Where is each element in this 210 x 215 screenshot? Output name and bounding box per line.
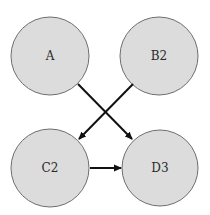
node-b2-label: B2 bbox=[151, 49, 167, 63]
node-d3-label: D3 bbox=[151, 161, 168, 175]
diagram-canvas: A B2 C2 D3 bbox=[0, 0, 210, 215]
node-a-label: A bbox=[45, 49, 55, 63]
node-c2-label: C2 bbox=[42, 161, 59, 175]
node-a: A bbox=[11, 17, 89, 95]
node-c2: C2 bbox=[11, 129, 89, 207]
node-b2: B2 bbox=[120, 17, 198, 95]
node-d3: D3 bbox=[122, 130, 198, 206]
